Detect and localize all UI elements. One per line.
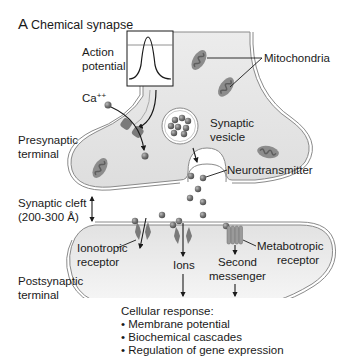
synaptic-cleft-label-2: (200-300 Å) — [18, 211, 79, 223]
synaptic-vesicle-label-2: vesicle — [210, 131, 245, 143]
ionotropic-label-2: receptor — [77, 256, 119, 268]
action-potential-graph — [127, 31, 173, 86]
postsynaptic-label-1: Postsynaptic — [18, 275, 83, 287]
cellular-response-item: • Biochemical cascades — [121, 331, 242, 343]
cellular-response-item: • Membrane potential — [121, 318, 230, 330]
metabotropic-label-2: receptor — [277, 254, 319, 266]
neurotransmitter-label: Neurotransmitter — [227, 164, 313, 176]
calcium-ion — [105, 102, 112, 109]
postsynaptic-label-2: terminal — [18, 289, 59, 301]
calcium-label: Ca++ — [82, 91, 106, 104]
panel-letter: A — [18, 15, 28, 32]
synaptic-cleft-label-1: Synaptic cleft — [18, 197, 87, 209]
fusing-vesicle — [188, 164, 226, 182]
calcium-ion-inside — [142, 153, 149, 160]
ionotropic-label-1: Ionotropic — [77, 242, 128, 254]
action-potential-label-1: Action — [82, 46, 114, 58]
synaptic-vesicle — [162, 108, 198, 144]
synaptic-vesicle-label-1: Synaptic — [210, 117, 254, 129]
presynaptic-label-1: Presynaptic — [18, 134, 78, 146]
cellular-response-item: • Regulation of gene expression — [121, 344, 284, 356]
action-potential-label-2: potential — [82, 60, 125, 72]
second-messenger-label-1: Second — [218, 256, 257, 268]
second-messenger-label-2: messenger — [209, 270, 266, 282]
released-neurotransmitters — [159, 186, 206, 224]
figure-title: A Chemical synapse — [18, 15, 133, 32]
chemical-synapse-diagram: A Chemical synapse Action potential Mito… — [0, 0, 346, 361]
metabotropic-label-1: Metabotropic — [257, 240, 324, 252]
ions-label: Ions — [173, 259, 195, 271]
cellular-response: Cellular response: • Membrane potential … — [121, 305, 284, 356]
cellular-response-heading: Cellular response: — [121, 305, 214, 317]
title-text: Chemical synapse — [31, 18, 133, 32]
neurotransmitter-molecule — [200, 175, 206, 181]
presynaptic-label-2: terminal — [18, 148, 59, 160]
mitochondria-label: Mitochondria — [264, 52, 330, 64]
